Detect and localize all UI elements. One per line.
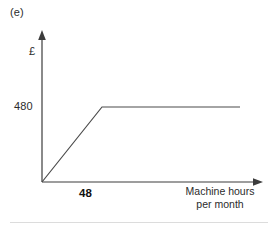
bottom-divider bbox=[10, 222, 268, 223]
cost-series-line bbox=[42, 107, 240, 182]
y-tick-label-480: 480 bbox=[14, 100, 33, 113]
x-axis-title: Machine hours per month bbox=[171, 185, 269, 211]
x-axis-title-line-1: Machine hours bbox=[171, 185, 269, 198]
x-axis-title-line-2: per month bbox=[171, 198, 269, 211]
y-axis-arrowhead bbox=[38, 30, 46, 40]
y-axis-unit-label: £ bbox=[29, 45, 35, 57]
x-tick-label-48: 48 bbox=[79, 186, 92, 200]
figure-container: (e) £ 480 48 Machine hours per month bbox=[0, 0, 275, 231]
